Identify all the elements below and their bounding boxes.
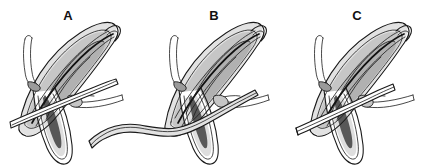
panel-a: A [10, 8, 123, 164]
figure-illustration: A B [0, 0, 442, 167]
panel-c-label: C [352, 8, 362, 23]
panel-a-label: A [63, 8, 73, 23]
panel-c: C [296, 8, 414, 164]
panel-b-label: B [209, 8, 218, 23]
figure-root: A B [0, 0, 442, 167]
